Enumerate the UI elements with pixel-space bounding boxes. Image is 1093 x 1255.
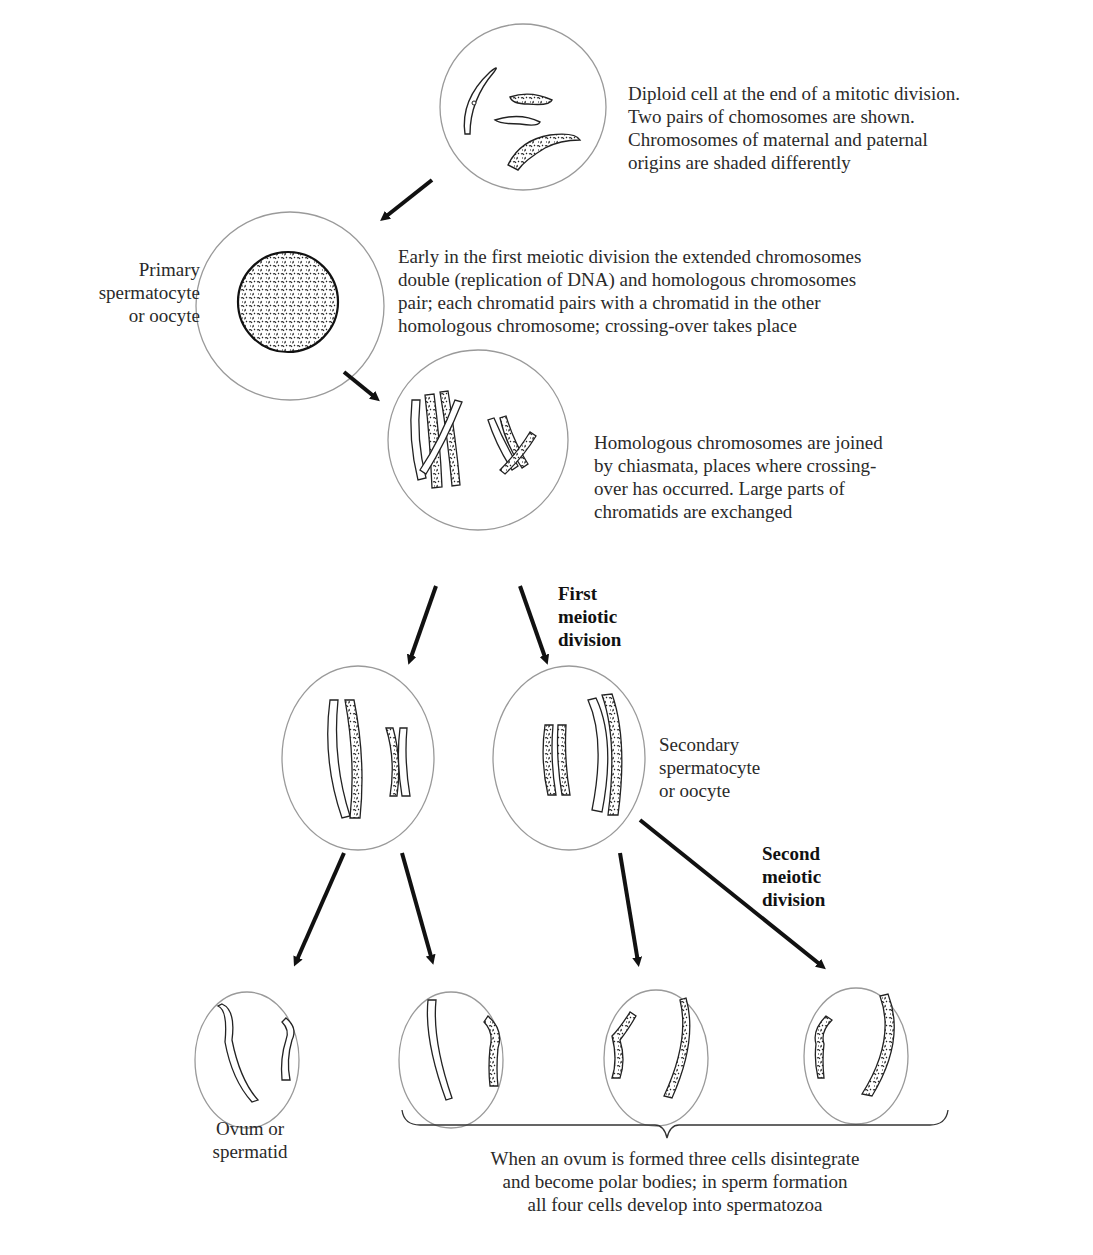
chiasmata-cell [388,350,568,530]
gamete-1 [195,992,299,1128]
label-second-meiotic-division: Second meiotic division [762,842,912,911]
label-primary: Primary spermatocyte or oocyte [60,258,200,327]
gamete-3 [604,990,708,1126]
label-first-meiotic-division: First meiotic division [558,582,708,651]
primary-cell [196,212,384,400]
gamete-4 [804,988,908,1124]
secondary-cell-left [282,666,434,850]
label-secondary: Secondary spermatocyte or oocyte [659,733,839,802]
caption-diploid: Diploid cell at the end of a mitotic div… [628,82,1088,174]
secondary-cell-right [493,666,645,850]
caption-polar-bodies: When an ovum is formed three cells disin… [400,1147,950,1216]
gamete-2 [399,992,503,1128]
caption-chiasmata: Homologous chromosomes are joined by chi… [594,431,1014,523]
diploid-cell [440,24,606,190]
label-ovum: Ovum or spermatid [190,1117,310,1163]
meiosis-diagram [0,0,1093,1255]
caption-early-meiosis: Early in the first meiotic division the … [398,245,1088,337]
